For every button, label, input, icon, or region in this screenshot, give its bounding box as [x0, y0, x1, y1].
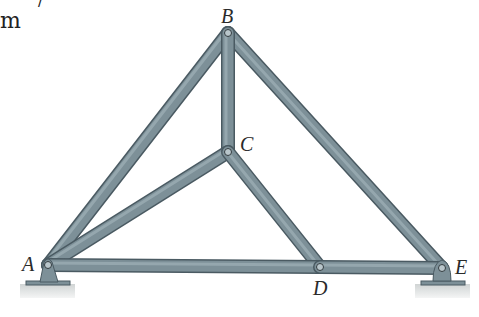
- member-ad: [46, 263, 320, 267]
- joint-label-b: B: [221, 5, 233, 28]
- member-bc: [226, 31, 228, 152]
- joint-label-a: A: [22, 253, 34, 276]
- truss-diagram: [0, 0, 479, 317]
- member-ac: [46, 150, 228, 265]
- joint-label-c: C: [240, 133, 253, 156]
- joint-label-e: E: [455, 256, 467, 279]
- member-be: [226, 31, 442, 268]
- member-cd: [226, 150, 320, 267]
- pin-c: [225, 149, 232, 156]
- member-de: [318, 265, 442, 268]
- pin-d: [317, 264, 324, 271]
- pin-b: [225, 30, 232, 37]
- joint-label-d: D: [313, 277, 327, 300]
- member-ab: [46, 31, 228, 265]
- pin-a: [45, 262, 52, 269]
- ground-e: [415, 281, 470, 298]
- ground-a: [20, 281, 75, 298]
- pin-e: [439, 265, 446, 272]
